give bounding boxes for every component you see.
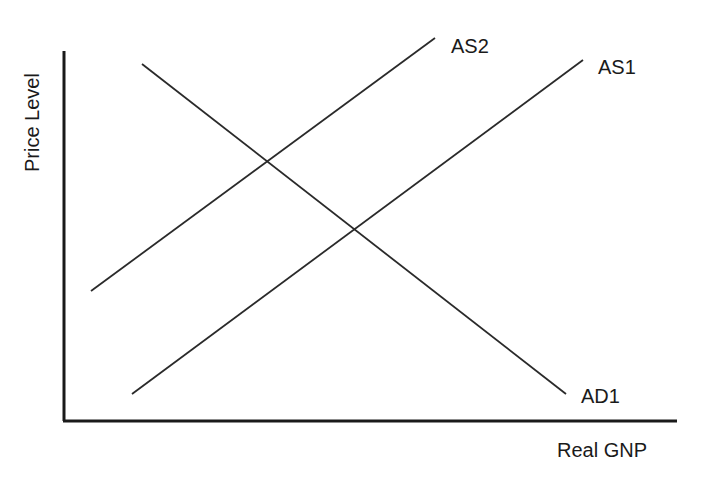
as1-label: AS1 [598,57,636,77]
x-axis-label: Real GNP [557,440,647,460]
as1-curve [132,60,583,394]
y-axis-label: Price Level [22,73,42,172]
as2-curve [91,38,435,291]
as2-label: AS2 [451,36,489,56]
ad1-label: AD1 [581,386,620,406]
